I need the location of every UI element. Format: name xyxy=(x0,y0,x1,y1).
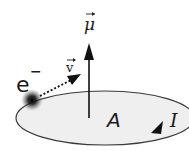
diagram-canvas: μ v e − A I xyxy=(0,0,189,151)
magnetic-moment-diagram: μ v e − A I xyxy=(0,0,189,151)
svg-text:v: v xyxy=(65,60,74,75)
velocity-arrowhead-icon xyxy=(67,74,81,85)
velocity-label: v xyxy=(65,58,76,75)
current-label: I xyxy=(169,109,178,131)
moment-arrowhead-icon xyxy=(84,43,94,60)
moment-label: μ xyxy=(84,12,95,34)
svg-text:μ: μ xyxy=(84,14,95,34)
svg-text:−: − xyxy=(30,63,42,79)
svg-text:e: e xyxy=(16,72,30,97)
area-label: A xyxy=(105,108,121,132)
